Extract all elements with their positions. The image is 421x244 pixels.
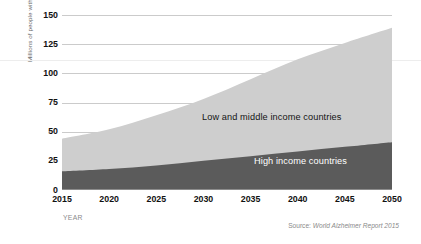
y-tick-label-50: 50 (32, 127, 58, 136)
x-tick-label-2035: 2035 (231, 195, 271, 204)
y-tick-label-75: 75 (32, 98, 58, 107)
x-tick-label-2025: 2025 (136, 195, 176, 204)
x-axis-title: YEAR (63, 214, 83, 221)
x-tick-label-2020: 2020 (89, 195, 129, 204)
x-tick-label-2040: 2040 (278, 195, 318, 204)
source-prefix: Source: (288, 222, 311, 229)
y-tick-label-150: 150 (32, 11, 58, 20)
y-tick-label-0: 0 (32, 186, 58, 195)
source-reference: World Alzheimer Report 2015 (313, 222, 399, 229)
y-axis-tick-labels: 0255075100125150 (28, 0, 58, 244)
y-tick-label-25: 25 (32, 156, 58, 165)
source-note: Source: World Alzheimer Report 2015 (288, 222, 399, 229)
x-tick-label-2045: 2045 (325, 195, 365, 204)
plot-area: Low and middle income countries High inc… (62, 15, 392, 190)
x-tick-label-2050: 2050 (372, 195, 412, 204)
x-tick-label-2015: 2015 (42, 195, 82, 204)
series-label-low-middle-income: Low and middle income countries (202, 112, 341, 122)
x-axis-baseline (62, 189, 392, 190)
x-axis-tick-labels: 20152020202520302035204020452050 (62, 195, 392, 209)
x-tick-label-2030: 2030 (183, 195, 223, 204)
y-tick-label-125: 125 (32, 40, 58, 49)
series-label-high-income: High income countries (254, 156, 347, 166)
dementia-projection-area-chart: Millions of people with dementia 0255075… (0, 0, 421, 244)
y-tick-label-100: 100 (32, 69, 58, 78)
